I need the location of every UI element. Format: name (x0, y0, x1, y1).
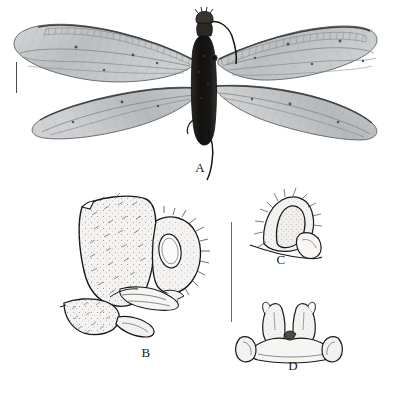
panel-a-habitus (0, 0, 394, 180)
right-paramere (322, 337, 342, 362)
right-forewing (218, 26, 377, 80)
right-hindwing (216, 85, 377, 140)
panel-d-gonocoxites-ventral (232, 298, 352, 366)
figure-plate: A (0, 0, 394, 394)
left-hindwing (32, 87, 198, 139)
panel-c-gonocoxite-detail (240, 188, 345, 263)
left-paramere (236, 337, 256, 362)
panel-a-artwork (0, 0, 394, 180)
panel-d-artwork (232, 298, 352, 366)
panel-b-terminalia-lateral (60, 185, 225, 350)
panel-label-a: A (190, 160, 210, 176)
panel-label-b: B (136, 345, 156, 361)
basal-bulb (296, 233, 321, 259)
panel-label-c: C (271, 252, 291, 268)
panel-label-d: D (283, 358, 303, 374)
gonocoxite-lobe (153, 206, 210, 304)
left-forewing (14, 24, 196, 82)
scale-bar-a (16, 62, 17, 93)
panel-b-artwork (60, 185, 225, 350)
panel-c-artwork (240, 188, 345, 263)
